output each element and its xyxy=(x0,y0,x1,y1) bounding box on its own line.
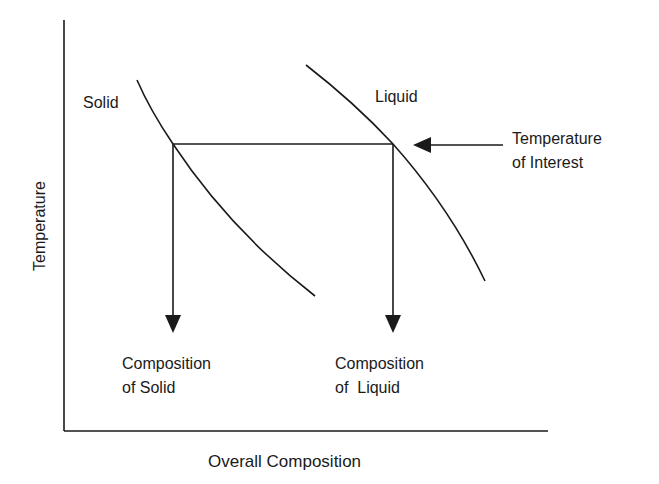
composition-of-liquid-line2: of Liquid xyxy=(335,377,400,399)
temperature-of-interest-line2: of Interest xyxy=(512,152,583,174)
solid-composition-arrowhead-icon xyxy=(165,315,181,333)
temperature-of-interest-line1: Temperature xyxy=(512,128,602,150)
composition-of-liquid-line1: Composition xyxy=(335,353,424,375)
liquid-composition-arrowhead-icon xyxy=(385,315,401,333)
composition-of-solid-line1: Composition xyxy=(122,353,211,375)
composition-of-solid-line2: of Solid xyxy=(122,377,175,399)
solid-curve xyxy=(137,80,315,296)
solid-curve-label: Solid xyxy=(83,92,119,114)
liquid-curve-label: Liquid xyxy=(375,86,418,108)
temperature-pointer-arrowhead-icon xyxy=(413,137,431,153)
y-axis-label: Temperature xyxy=(31,181,49,271)
x-axis-label: Overall Composition xyxy=(208,451,361,473)
phase-diagram xyxy=(0,0,659,484)
